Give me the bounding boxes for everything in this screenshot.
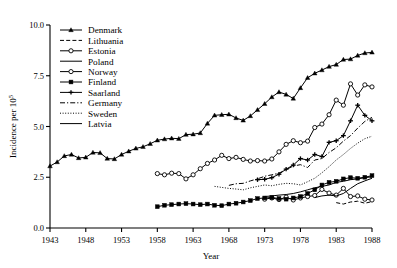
- marker-finland: [206, 202, 210, 206]
- marker-estonia: [212, 158, 216, 162]
- marker-finland: [198, 203, 202, 207]
- x-tick-label: 1978: [292, 235, 309, 245]
- x-tick-label: 1948: [77, 235, 94, 245]
- marker-estonia: [170, 171, 174, 175]
- y-axis-title: Incidence per 105: [7, 95, 18, 158]
- marker-finland: [306, 192, 310, 196]
- y-tick-label: 0.0: [33, 223, 44, 233]
- marker-finland: [341, 177, 345, 181]
- marker-finland: [284, 197, 288, 201]
- marker-finland: [227, 202, 231, 206]
- marker-denmark: [277, 90, 282, 94]
- marker-finland: [234, 201, 238, 205]
- marker-finland: [299, 195, 303, 199]
- marker-finland: [349, 176, 353, 180]
- marker-estonia: [341, 103, 345, 107]
- marker-estonia: [284, 142, 288, 146]
- marker-finland: [248, 199, 252, 203]
- y-tick-label: 10.0: [29, 20, 44, 30]
- marker-estonia: [306, 139, 310, 143]
- marker-finland: [184, 202, 188, 206]
- x-tick-label: 1983: [328, 235, 345, 245]
- marker-estonia: [227, 156, 231, 160]
- series-line-saarland: [258, 105, 372, 180]
- x-tick-label: 1988: [364, 235, 381, 245]
- marker-estonia: [334, 98, 338, 102]
- marker-finland: [313, 188, 317, 192]
- marker-finland: [163, 203, 167, 207]
- legend-marker-norway: [69, 70, 73, 74]
- legend-label-estonia: Estonia: [88, 46, 116, 56]
- marker-estonia: [263, 159, 267, 163]
- marker-estonia: [241, 157, 245, 161]
- marker-estonia: [184, 177, 188, 181]
- marker-finland: [213, 203, 217, 207]
- marker-finland: [291, 196, 295, 200]
- marker-norway: [348, 194, 352, 198]
- marker-estonia: [348, 82, 352, 86]
- legend-label-germany: Germany: [88, 98, 123, 108]
- x-tick-label: 1943: [42, 235, 59, 245]
- marker-finland: [191, 202, 195, 206]
- marker-estonia: [270, 157, 274, 161]
- marker-norway: [363, 197, 367, 201]
- marker-estonia: [177, 171, 181, 175]
- marker-estonia: [277, 150, 281, 154]
- legend-marker-finland: [69, 80, 73, 84]
- marker-estonia: [327, 113, 331, 117]
- x-tick-label: 1953: [113, 235, 130, 245]
- marker-estonia: [356, 93, 360, 97]
- marker-norway: [327, 191, 331, 195]
- marker-estonia: [205, 161, 209, 165]
- marker-estonia: [191, 173, 195, 177]
- marker-norway: [320, 187, 324, 191]
- marker-estonia: [198, 167, 202, 171]
- marker-finland: [177, 202, 181, 206]
- marker-estonia: [234, 155, 238, 159]
- x-tick-label: 1973: [256, 235, 273, 245]
- marker-estonia: [363, 83, 367, 87]
- legend-label-poland: Poland: [88, 57, 114, 67]
- legend-marker-estonia: [69, 49, 73, 53]
- legend-label-finland: Finland: [88, 77, 116, 87]
- marker-finland: [320, 183, 324, 187]
- marker-finland: [270, 196, 274, 200]
- marker-denmark: [48, 164, 53, 168]
- series-line-estonia: [157, 84, 372, 179]
- marker-finland: [170, 203, 174, 207]
- legend-label-denmark: Denmark: [88, 25, 123, 35]
- y-tick-label: 7.5: [33, 71, 44, 81]
- marker-estonia: [291, 139, 295, 143]
- x-tick-label: 1963: [185, 235, 202, 245]
- marker-estonia: [162, 173, 166, 177]
- marker-finland: [327, 180, 331, 184]
- marker-denmark: [69, 152, 74, 156]
- marker-estonia: [255, 159, 259, 163]
- marker-estonia: [313, 125, 317, 129]
- series-line-lithuania: [336, 201, 372, 204]
- marker-finland: [155, 205, 159, 209]
- marker-estonia: [155, 171, 159, 175]
- marker-norway: [341, 186, 345, 190]
- marker-norway: [356, 194, 360, 198]
- y-tick-label: 2.5: [33, 172, 44, 182]
- y-tick-label: 5.0: [33, 122, 44, 132]
- marker-estonia: [248, 159, 252, 163]
- x-tick-label: 1968: [220, 235, 237, 245]
- x-axis-title: Year: [203, 251, 220, 261]
- marker-finland: [356, 176, 360, 180]
- marker-finland: [220, 204, 224, 208]
- legend-label-norway: Norway: [88, 67, 118, 77]
- marker-denmark: [305, 75, 310, 79]
- marker-estonia: [298, 141, 302, 145]
- marker-finland: [277, 197, 281, 201]
- marker-norway: [370, 198, 374, 202]
- legend-label-saarland: Saarland: [88, 88, 121, 98]
- x-tick-label: 1958: [149, 235, 166, 245]
- marker-estonia: [220, 153, 224, 157]
- marker-finland: [263, 196, 267, 200]
- marker-finland: [370, 174, 374, 178]
- legend-label-lithuania: Lithuania: [88, 36, 123, 46]
- chart-canvas: 0.02.55.07.510.0194319481953195819631968…: [0, 0, 397, 268]
- series-line-germany: [229, 117, 372, 185]
